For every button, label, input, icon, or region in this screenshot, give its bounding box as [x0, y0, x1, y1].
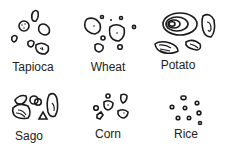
label-wheat: Wheat	[91, 61, 126, 73]
label-rice: Rice	[174, 128, 198, 140]
tapioca-granules	[12, 11, 50, 55]
label-tapioca: Tapioca	[12, 61, 53, 73]
wheat-granules	[85, 16, 136, 53]
label-sago: Sago	[15, 130, 43, 142]
corn-granules	[94, 94, 128, 119]
potato-granules	[155, 13, 215, 53]
rice-granules	[170, 96, 201, 125]
sago-granules	[13, 94, 58, 119]
label-corn: Corn	[95, 128, 121, 140]
label-potato: Potato	[161, 59, 196, 71]
